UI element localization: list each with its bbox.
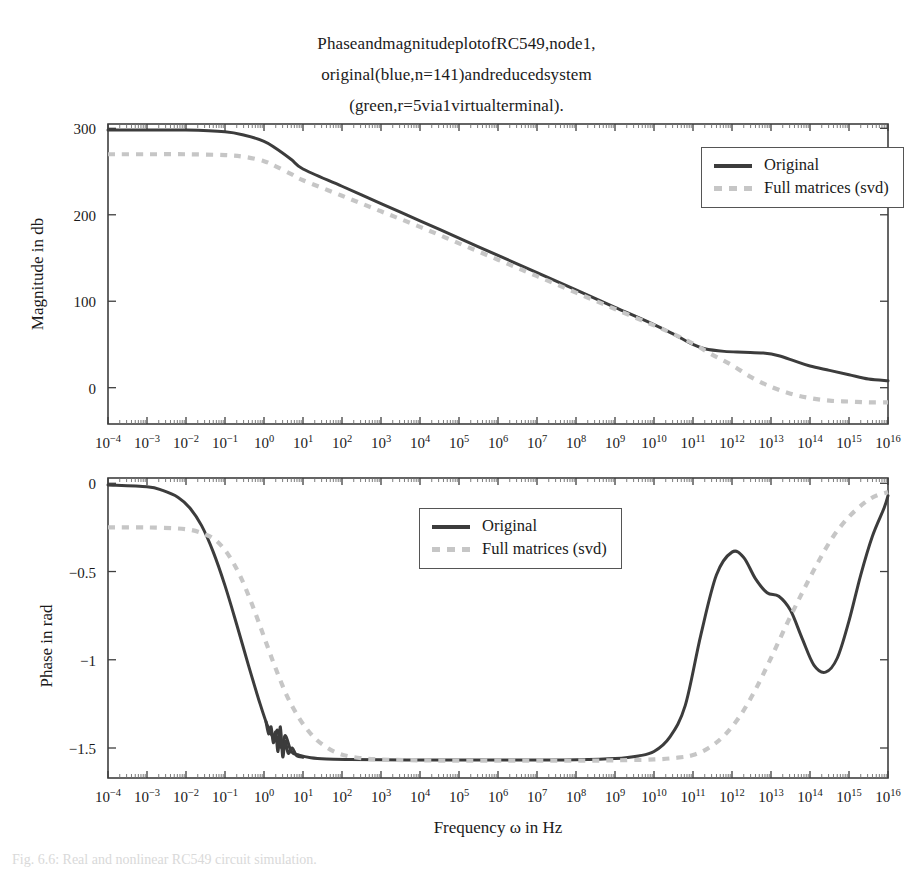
svg-text:1015: 1015 bbox=[836, 787, 862, 805]
svg-text:−0.5: −0.5 bbox=[69, 565, 96, 581]
svg-text:104: 104 bbox=[410, 787, 431, 805]
figure-caption: Fig. 6.6: Real and nonlinear RC549 circu… bbox=[12, 852, 612, 868]
legend-line-solid-icon bbox=[430, 520, 472, 534]
legend-label-reduced: Full matrices (svd) bbox=[764, 180, 889, 197]
legend-entry-reduced: Full matrices (svd) bbox=[430, 538, 607, 561]
phase-legend: Original Full matrices (svd) bbox=[419, 508, 622, 569]
figure-root: PhaseandmagnitudeplotofRC549,node1, orig… bbox=[0, 0, 913, 871]
legend-line-dashed-icon bbox=[712, 182, 754, 196]
svg-text:105: 105 bbox=[449, 787, 469, 805]
legend-entry-reduced: Full matrices (svd) bbox=[712, 177, 889, 200]
svg-text:1016: 1016 bbox=[875, 787, 901, 805]
svg-text:1014: 1014 bbox=[797, 787, 823, 805]
legend-entry-original: Original bbox=[430, 515, 607, 538]
svg-text:0: 0 bbox=[89, 476, 97, 492]
magnitude-legend: Original Full matrices (svd) bbox=[701, 147, 904, 208]
svg-text:100: 100 bbox=[254, 787, 274, 805]
legend-entry-original: Original bbox=[712, 154, 889, 177]
svg-text:−1: −1 bbox=[80, 653, 96, 669]
svg-text:108: 108 bbox=[566, 787, 586, 805]
svg-text:10−3: 10−3 bbox=[134, 787, 160, 805]
svg-text:1010: 1010 bbox=[641, 787, 667, 805]
svg-text:109: 109 bbox=[605, 787, 625, 805]
svg-text:10−1: 10−1 bbox=[212, 787, 238, 805]
legend-line-solid-icon bbox=[712, 159, 754, 173]
legend-label-original: Original bbox=[764, 157, 819, 174]
svg-text:103: 103 bbox=[371, 787, 391, 805]
svg-text:10−4: 10−4 bbox=[95, 787, 122, 805]
svg-text:107: 107 bbox=[527, 787, 547, 805]
svg-text:102: 102 bbox=[332, 787, 352, 805]
svg-text:106: 106 bbox=[488, 787, 508, 805]
phase-plot: 10−410−310−210−1100101102103104105106107… bbox=[0, 0, 913, 871]
svg-text:10−2: 10−2 bbox=[173, 787, 199, 805]
legend-label-original: Original bbox=[482, 518, 537, 535]
svg-text:1012: 1012 bbox=[719, 787, 745, 805]
svg-text:1013: 1013 bbox=[758, 787, 784, 805]
legend-label-reduced: Full matrices (svd) bbox=[482, 541, 607, 558]
svg-text:101: 101 bbox=[293, 787, 313, 805]
svg-text:1011: 1011 bbox=[680, 787, 705, 805]
svg-text:−1.5: −1.5 bbox=[69, 741, 96, 757]
legend-line-dashed-icon bbox=[430, 543, 472, 557]
